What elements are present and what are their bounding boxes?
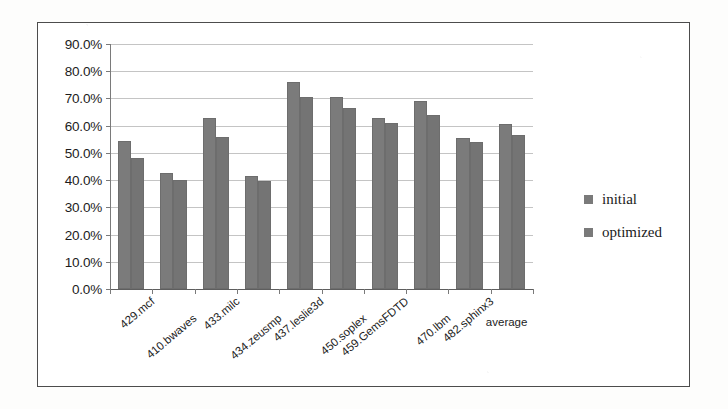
- x-axis-label-410.bwaves: 410.bwaves: [144, 312, 199, 361]
- y-axis-tick: [106, 262, 111, 263]
- gridline: [110, 44, 533, 45]
- gridline: [110, 71, 533, 72]
- x-axis-tick: [533, 289, 534, 294]
- bar-optimized-470.lbm: [427, 115, 440, 289]
- bar-initial-450.soplex: [330, 97, 343, 289]
- legend-label-initial: initial: [602, 191, 637, 208]
- bar-optimized-437.leslie3d: [300, 97, 313, 289]
- x-axis-tick: [279, 289, 280, 294]
- y-axis-tick: [106, 153, 111, 154]
- x-axis-tick: [322, 289, 323, 294]
- chart-frame: 90.0%80.0%70.0%60.0%50.0%40.0%30.0%20.0%…: [37, 22, 690, 387]
- value-axis-line: [110, 44, 111, 289]
- legend-swatch-initial: [584, 195, 593, 204]
- bar-initial-433.milc: [203, 118, 216, 290]
- x-axis-label-average: average: [486, 316, 528, 328]
- legend-item-optimized: optimized: [584, 224, 704, 241]
- gridline: [110, 98, 533, 99]
- y-axis-tick-label: 10.0%: [65, 254, 102, 269]
- bar-initial-410.bwaves: [160, 173, 173, 289]
- bar-optimized-434.zeusmp: [258, 181, 271, 289]
- x-axis-tick: [491, 289, 492, 294]
- y-axis-tick-label: 20.0%: [65, 227, 102, 242]
- y-axis-tick: [106, 207, 111, 208]
- x-axis-tick: [237, 289, 238, 294]
- plot-area: 90.0%80.0%70.0%60.0%50.0%40.0%30.0%20.0%…: [110, 44, 533, 289]
- y-axis-tick: [106, 44, 111, 45]
- bar-optimized-459.GemsFDTD: [385, 123, 398, 289]
- x-axis-label-433.milc: 433.milc: [201, 295, 242, 332]
- legend-item-initial: initial: [584, 191, 704, 208]
- x-axis-tick: [152, 289, 153, 294]
- y-axis-tick-label: 90.0%: [65, 37, 102, 52]
- bar-initial-482.sphinx3: [456, 138, 469, 289]
- gridline: [110, 126, 533, 127]
- bar-optimized-average: [512, 135, 525, 289]
- y-axis-tick: [106, 180, 111, 181]
- chart-legend: initial optimized: [584, 191, 704, 257]
- bar-initial-437.leslie3d: [287, 82, 300, 289]
- x-axis-tick: [110, 289, 111, 294]
- bar-initial-470.lbm: [414, 101, 427, 289]
- y-axis-tick: [106, 126, 111, 127]
- y-axis-tick-label: 80.0%: [65, 64, 102, 79]
- x-axis-tick: [406, 289, 407, 294]
- bar-optimized-433.milc: [216, 137, 229, 289]
- bar-initial-459.GemsFDTD: [372, 118, 385, 290]
- x-axis-tick: [195, 289, 196, 294]
- x-axis-label-429.mcf: 429.mcf: [118, 295, 157, 330]
- y-axis-tick-label: 70.0%: [65, 91, 102, 106]
- y-axis-tick: [106, 235, 111, 236]
- y-axis-tick: [106, 98, 111, 99]
- bar-optimized-482.sphinx3: [470, 142, 483, 289]
- y-axis-tick-label: 60.0%: [65, 118, 102, 133]
- legend-swatch-optimized: [584, 228, 593, 237]
- y-axis-tick-label: 0.0%: [72, 282, 102, 297]
- bar-optimized-450.soplex: [343, 108, 356, 289]
- bar-initial-average: [499, 124, 512, 289]
- bar-initial-434.zeusmp: [245, 176, 258, 289]
- bar-optimized-429.mcf: [131, 158, 144, 289]
- legend-label-optimized: optimized: [602, 224, 662, 241]
- x-axis-tick: [448, 289, 449, 294]
- y-axis-tick: [106, 71, 111, 72]
- y-axis-tick-label: 30.0%: [65, 200, 102, 215]
- x-axis-tick: [364, 289, 365, 294]
- bar-initial-429.mcf: [118, 141, 131, 289]
- bar-optimized-410.bwaves: [173, 180, 186, 289]
- y-axis-tick-label: 40.0%: [65, 173, 102, 188]
- y-axis-tick-label: 50.0%: [65, 145, 102, 160]
